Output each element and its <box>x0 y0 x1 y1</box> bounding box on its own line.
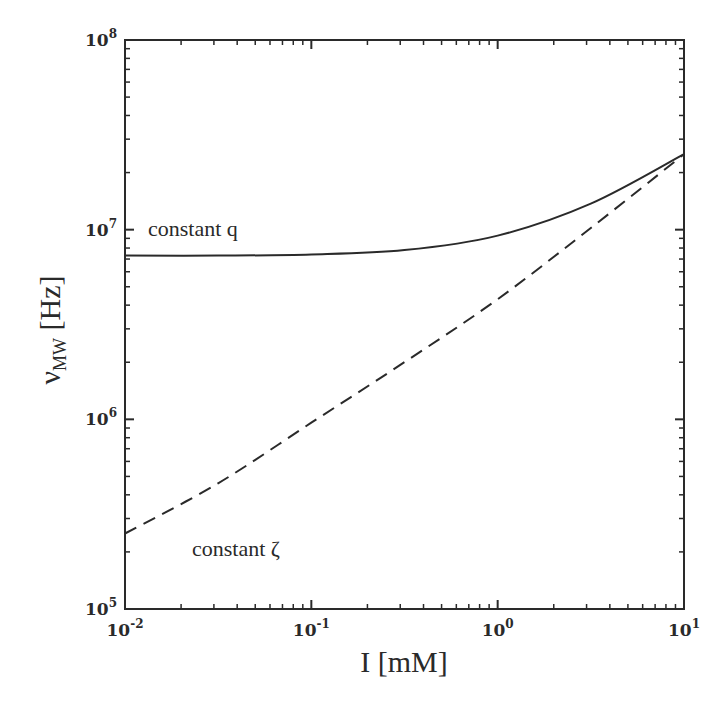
x-tick-label-1e-2: 10-2 <box>106 617 143 640</box>
series-constant-zeta-line <box>125 154 684 533</box>
y-axis-title-text: νMW [Hz] <box>33 275 70 384</box>
y-tick-labels: 105106107108 <box>85 27 117 619</box>
chart: constant q constant ζ 105106107108 10-21… <box>0 0 720 720</box>
x-tick-label-1e1: 101 <box>668 617 700 640</box>
x-tick-label-1e-1: 10-1 <box>293 617 330 640</box>
y-tick-label-1e7: 107 <box>85 217 117 240</box>
annotation-constant-zeta: constant ζ <box>192 536 280 561</box>
plot-frame <box>125 40 684 609</box>
y-axis-symbol: ν <box>33 371 66 385</box>
annotation-constant-q: constant q <box>148 216 238 241</box>
minor-ticks <box>125 40 684 609</box>
major-ticks <box>125 40 684 609</box>
y-tick-label-1e5: 105 <box>85 596 117 619</box>
y-axis-subscript: MW <box>50 338 70 371</box>
x-axis-title: I [mM] <box>360 645 447 678</box>
x-tick-labels: 10-210-1100101 <box>106 617 700 640</box>
x-tick-label-1e0: 100 <box>482 617 514 640</box>
y-tick-label-1e6: 106 <box>85 406 117 429</box>
y-axis-title: νMW [Hz] <box>33 275 70 384</box>
y-axis-unit: [Hz] <box>33 275 66 337</box>
y-tick-label-1e8: 108 <box>85 27 117 50</box>
